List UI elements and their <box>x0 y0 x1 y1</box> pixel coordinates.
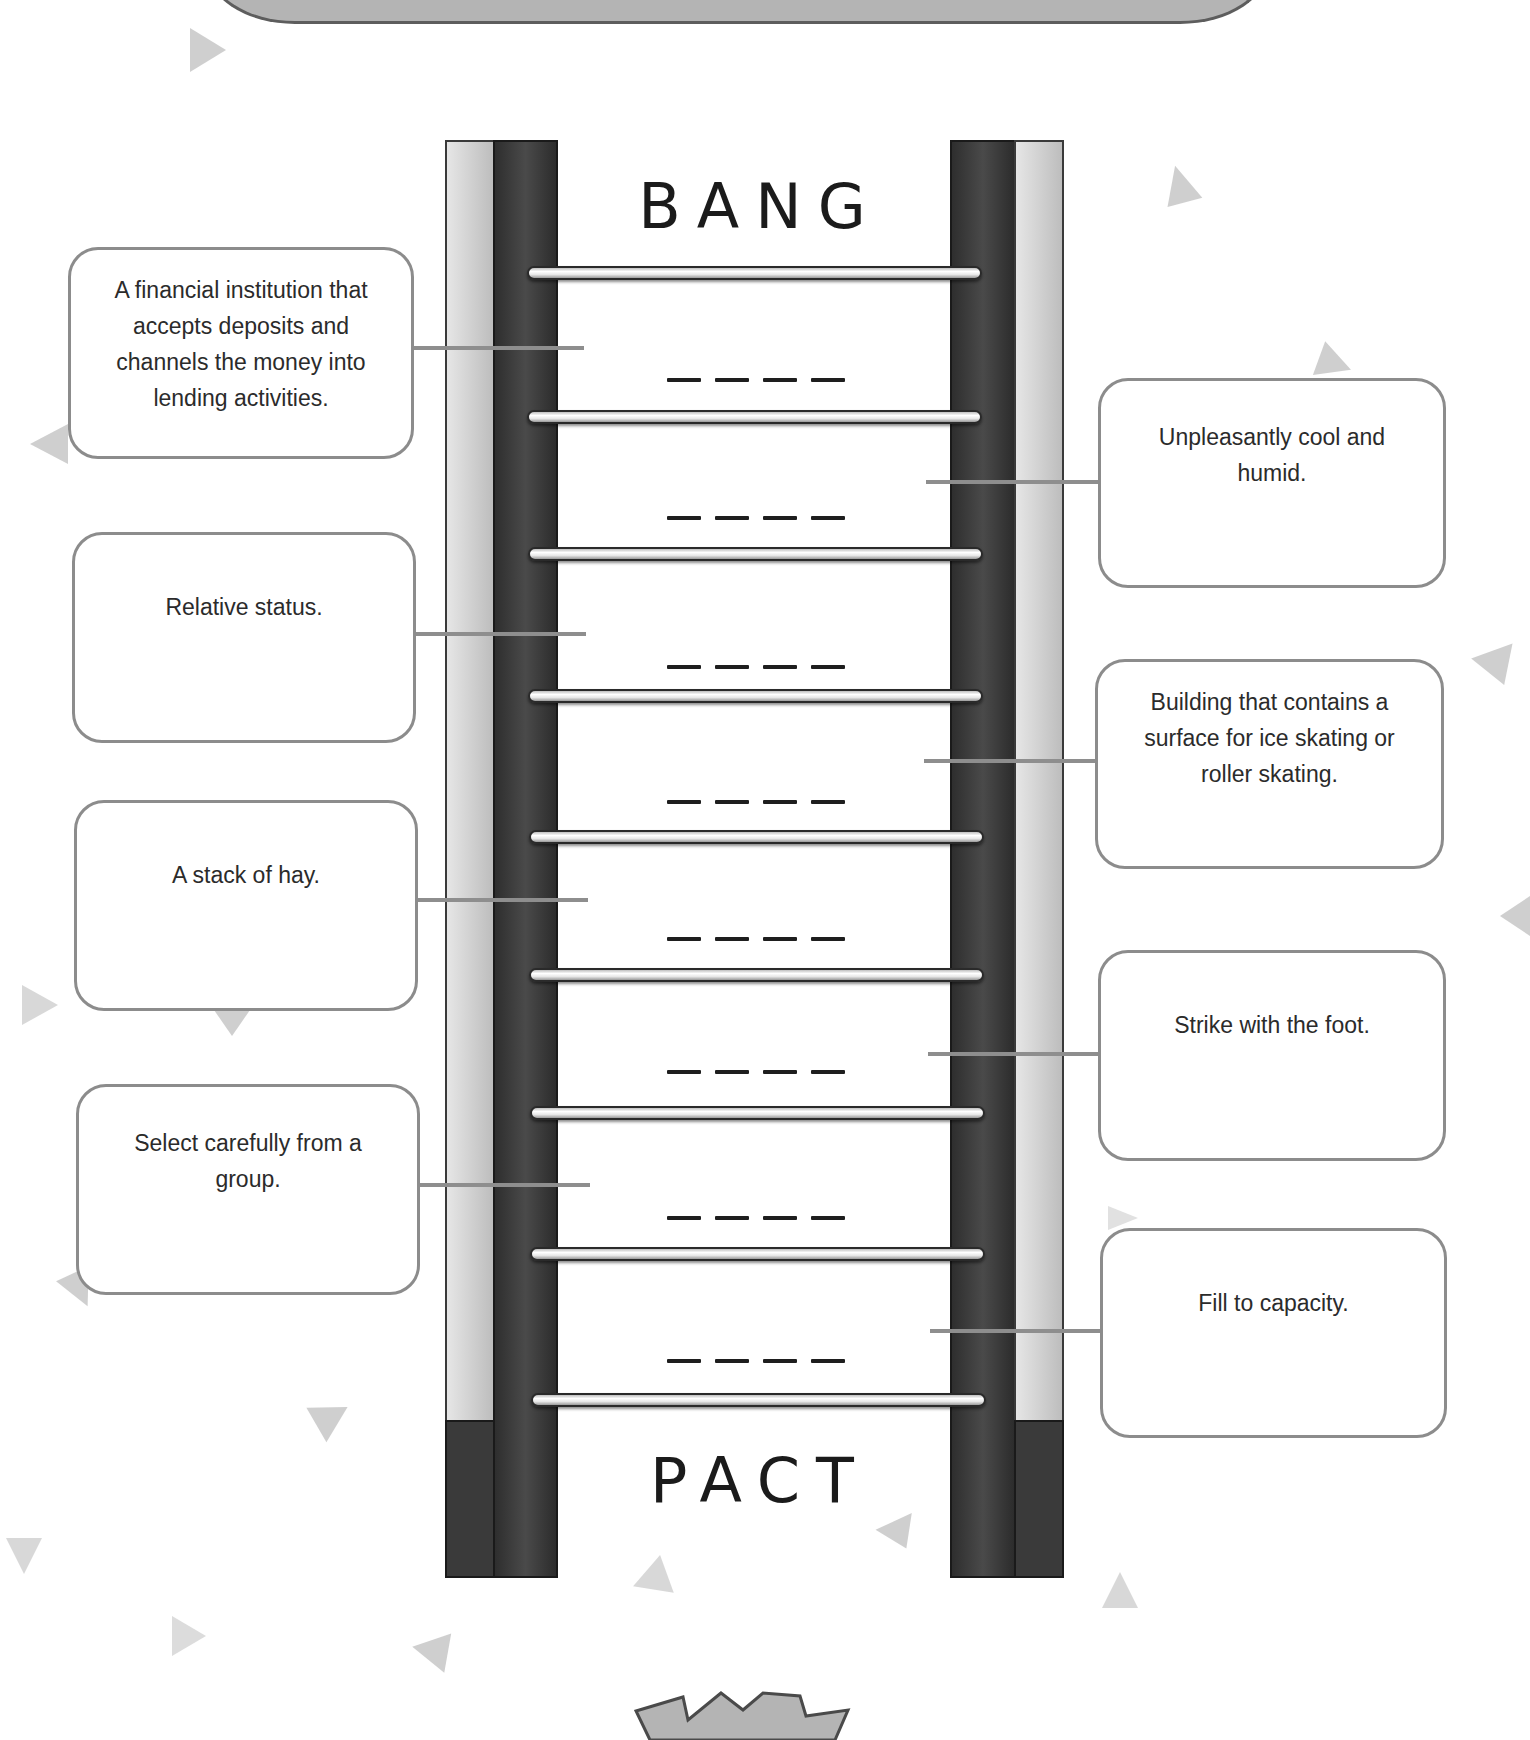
triangle-icon <box>172 1616 206 1656</box>
clue-text: Relative status. <box>165 594 322 620</box>
triangle-icon <box>1500 896 1530 936</box>
connector-line <box>928 1052 1100 1056</box>
clue-text: Fill to capacity. <box>1198 1290 1348 1316</box>
left-rail-inner <box>493 140 558 1578</box>
ladder-rung <box>528 689 983 703</box>
header-banner <box>205 0 1270 24</box>
triangle-icon <box>626 1555 674 1605</box>
ladder-rung <box>528 547 983 561</box>
triangle-icon <box>214 1010 250 1036</box>
clue-text: Select carefully from a group. <box>134 1130 362 1192</box>
clue-box-right-3: Strike with the foot. <box>1098 950 1446 1161</box>
ladder-rung <box>529 968 984 982</box>
left-rail-outer <box>445 140 495 1578</box>
connector-line <box>412 346 584 350</box>
ladder-rung <box>529 830 984 844</box>
clue-text: A stack of hay. <box>172 862 320 888</box>
triangle-icon <box>409 1627 451 1673</box>
clue-text: Building that contains a surface for ice… <box>1144 689 1395 787</box>
triangle-icon <box>190 28 226 72</box>
connector-line <box>414 632 586 636</box>
triangle-icon <box>1471 644 1525 693</box>
right-rail-bottom-shade <box>1014 1420 1064 1578</box>
right-rail-outer <box>1014 140 1064 1578</box>
blank-row-1[interactable] <box>667 378 845 383</box>
ladder-rung <box>527 410 982 424</box>
ladder-rung <box>530 1106 985 1120</box>
clue-box-left-3: A stack of hay. <box>74 800 418 1011</box>
clue-text: Unpleasantly cool and humid. <box>1159 424 1385 486</box>
clue-box-left-1: A financial institution that accepts dep… <box>68 247 414 459</box>
right-rail-inner <box>950 140 1016 1578</box>
triangle-icon <box>1108 1206 1138 1230</box>
ladder-rung <box>527 266 982 280</box>
blank-row-5[interactable] <box>667 937 845 942</box>
connector-line <box>926 480 1100 484</box>
clue-text: Strike with the foot. <box>1174 1012 1370 1038</box>
ladder-rung <box>530 1247 985 1261</box>
start-word: BANG <box>600 176 920 238</box>
blank-row-3[interactable] <box>667 665 845 670</box>
triangle-icon <box>306 1390 357 1443</box>
clue-text: A financial institution that accepts dep… <box>114 277 367 411</box>
blank-row-6[interactable] <box>667 1070 845 1075</box>
triangle-icon <box>30 424 68 464</box>
clue-box-left-2: Relative status. <box>72 532 416 743</box>
blank-row-7[interactable] <box>667 1216 845 1221</box>
ladder-rung <box>531 1393 986 1407</box>
clue-box-right-2: Building that contains a surface for ice… <box>1095 659 1444 869</box>
triangle-icon <box>1102 1572 1138 1608</box>
triangle-icon <box>22 985 58 1025</box>
connector-line <box>418 1183 590 1187</box>
clue-box-right-1: Unpleasantly cool and humid. <box>1098 378 1446 588</box>
starburst-badge <box>620 1680 870 1740</box>
clue-box-right-4: Fill to capacity. <box>1100 1228 1447 1438</box>
blank-row-2[interactable] <box>667 516 845 521</box>
triangle-icon <box>6 1538 42 1574</box>
triangle-icon <box>876 1513 925 1557</box>
connector-line <box>930 1329 1102 1333</box>
blank-row-4[interactable] <box>667 800 845 805</box>
triangle-icon <box>1158 161 1203 207</box>
blank-row-8[interactable] <box>667 1359 845 1364</box>
connector-line <box>924 759 1098 763</box>
clue-box-left-4: Select carefully from a group. <box>76 1084 420 1295</box>
left-rail-bottom-shade <box>445 1420 495 1578</box>
connector-line <box>416 898 588 902</box>
end-word: PACT <box>600 1450 920 1512</box>
